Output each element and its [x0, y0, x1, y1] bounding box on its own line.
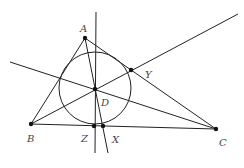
point-d	[93, 87, 97, 91]
point-c	[214, 127, 218, 131]
label-z: Z	[80, 133, 89, 144]
point-y	[129, 68, 133, 72]
label-a: A	[79, 23, 87, 34]
label-c: C	[219, 137, 227, 148]
line-adx	[85, 38, 108, 153]
label-d: D	[100, 97, 109, 108]
label-b: B	[26, 133, 34, 144]
label-y: Y	[145, 69, 153, 80]
side-bc	[31, 124, 216, 129]
point-x	[101, 124, 105, 128]
point-a	[83, 36, 87, 40]
label-x: X	[111, 134, 120, 145]
side-ac	[85, 38, 216, 129]
line-dz	[95, 12, 96, 153]
point-b	[29, 122, 33, 126]
side-ab	[31, 38, 85, 124]
point-z	[92, 124, 96, 128]
line-bdy	[31, 14, 238, 124]
geometry-diagram: A B C D Y Z X	[0, 0, 244, 168]
